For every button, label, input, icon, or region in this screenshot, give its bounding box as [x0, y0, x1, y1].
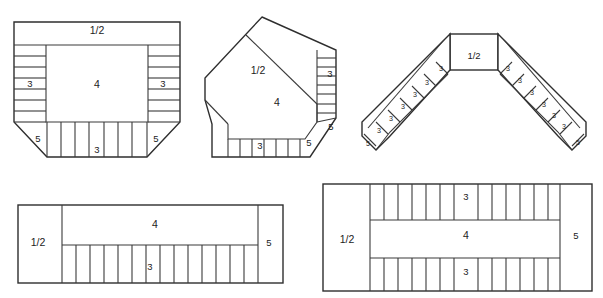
- chevron-bond-callout-0: 1/2: [467, 50, 480, 61]
- chevron-bond-callout-13: 3: [562, 122, 566, 131]
- diagram-canvas: 1/23435351/2345351/2333333533333351/2435…: [0, 0, 603, 298]
- angled-corner-bond-callout-4: 3: [257, 140, 262, 151]
- chevron-bond-callout-4: 3: [401, 102, 405, 111]
- angled-corner-bond-callout-5: 5: [306, 137, 311, 148]
- angled-corner-bond-callout-0: 1/2: [251, 64, 266, 76]
- square-corner-bond-callout-4: 5: [35, 133, 40, 144]
- single-wall-bond-callout-3: 5: [266, 237, 271, 248]
- figure-3-left-arm: [362, 34, 450, 150]
- square-corner-bond-callout-2: 4: [94, 78, 100, 90]
- square-corner-bond-callout-5: 3: [94, 144, 99, 155]
- chevron-bond-callout-14: 5: [576, 138, 580, 147]
- chevron-bond-callout-3: 3: [413, 90, 417, 99]
- chevron-bond-callout-5: 3: [389, 114, 393, 123]
- chevron-bond-callout-12: 3: [552, 111, 556, 120]
- chevron-bond-callout-1: 3: [439, 64, 443, 73]
- single-wall-bond-callout-2: 3: [147, 261, 152, 272]
- double-wall-bond-callout-1: 3: [463, 191, 468, 202]
- chevron-bond-callout-7: 5: [366, 139, 370, 148]
- chevron-bond-callout-9: 3: [518, 76, 522, 85]
- figure-3-right-arm: [498, 34, 586, 150]
- single-wall-bond-callout-0: 1/2: [31, 236, 46, 248]
- square-corner-bond-callout-0: 1/2: [90, 24, 105, 36]
- chevron-bond-callout-2: 3: [425, 78, 429, 87]
- angled-corner-bond-callout-1: 3: [327, 68, 332, 79]
- single-wall-bond-callout-1: 4: [152, 218, 158, 230]
- brick-bond-diagram-sheet: 1/23435351/2345351/2333333533333351/2435…: [0, 0, 603, 298]
- double-wall-bond-callout-4: 5: [573, 230, 578, 241]
- double-wall-bond-callout-3: 3: [463, 266, 468, 277]
- square-corner-bond-callout-6: 5: [153, 133, 158, 144]
- figure-2-outline: [205, 17, 336, 157]
- chevron-bond-callout-10: 3: [530, 88, 534, 97]
- chevron-bond-callout-11: 3: [542, 100, 546, 109]
- angled-corner-bond-callout-2: 4: [274, 96, 280, 108]
- chevron-bond-callout-8: 3: [506, 64, 510, 73]
- square-corner-bond-callout-1: 3: [27, 78, 32, 89]
- chevron-bond-callout-6: 3: [377, 126, 381, 135]
- double-wall-bond-callout-2: 4: [463, 229, 469, 241]
- angled-corner-bond-callout-3: 5: [328, 121, 333, 132]
- figure-5-double-wall-bond: [323, 184, 592, 291]
- double-wall-bond-callout-0: 1/2: [340, 233, 355, 245]
- square-corner-bond-callout-3: 3: [160, 78, 165, 89]
- figure-5-outline: [323, 184, 592, 291]
- figure-2-angled-corner-bond: [205, 17, 336, 157]
